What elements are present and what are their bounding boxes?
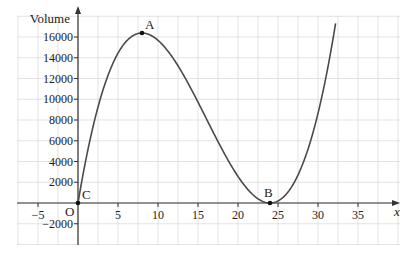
x-tick-label: 20 bbox=[232, 208, 244, 222]
y-axis-arrow-icon bbox=[75, 6, 81, 14]
point-c-marker bbox=[76, 201, 81, 206]
y-tick-label: 6000 bbox=[49, 134, 73, 148]
x-tick-label: 5 bbox=[115, 208, 121, 222]
y-tick-label: 10000 bbox=[43, 92, 73, 106]
x-tick-label: 35 bbox=[352, 208, 364, 222]
point-a-marker bbox=[140, 31, 145, 36]
x-tick-label: 25 bbox=[272, 208, 284, 222]
x-axis-label: x bbox=[393, 204, 400, 219]
x-tick-label: 15 bbox=[192, 208, 204, 222]
grid-lines bbox=[17, 16, 400, 245]
y-tick-label: 12000 bbox=[43, 72, 73, 86]
y-tick-label: 2000 bbox=[49, 175, 73, 189]
axes bbox=[17, 6, 400, 245]
x-ticks: −55101520253035 bbox=[32, 203, 364, 222]
point-b-label: B bbox=[264, 185, 273, 200]
y-tick-label: 4000 bbox=[49, 155, 73, 169]
volume-curve bbox=[78, 23, 336, 203]
x-tick-label: 30 bbox=[312, 208, 324, 222]
y-tick-label: 8000 bbox=[49, 113, 73, 127]
labeled-points: ABC bbox=[76, 17, 273, 205]
y-tick-label: 14000 bbox=[43, 51, 73, 65]
y-axis-label: Volume bbox=[30, 11, 70, 26]
y-tick-label: 16000 bbox=[43, 30, 73, 44]
point-a-label: A bbox=[145, 17, 155, 32]
x-tick-label: 10 bbox=[152, 208, 164, 222]
point-c-label: C bbox=[82, 187, 91, 202]
point-b-marker bbox=[268, 201, 273, 206]
y-ticks: −200020004000600080001000012000140001600… bbox=[42, 30, 78, 231]
volume-chart: −55101520253035 −20002000400060008000100… bbox=[0, 0, 414, 254]
origin-label: O bbox=[65, 204, 74, 219]
